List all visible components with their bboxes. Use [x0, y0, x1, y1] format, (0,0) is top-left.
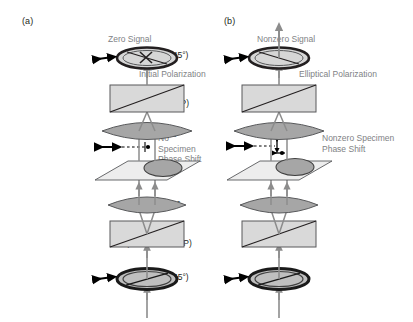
analyzer-orientation-arrow [98, 57, 113, 59]
panel-b-optics [207, 0, 413, 322]
condenser-lens [240, 197, 318, 213]
shear-phase-indicator-a [100, 142, 150, 152]
beam-pair-specimen-to-objective [139, 139, 155, 161]
specimen-object [276, 159, 314, 176]
objective-lens [234, 123, 324, 140]
panel-b: (b) Nonzero Signal Elliptical Polarizati… [207, 0, 413, 322]
specimen-object [144, 160, 182, 177]
analyzer-orientation-arrow [230, 57, 245, 59]
prism-objective-bfp [242, 85, 316, 112]
objective-lens [102, 123, 192, 140]
shear-phase-indicator-b [232, 140, 285, 155]
panel-a: (a) Analyzer (−45°) Prism (Objective BFP… [0, 0, 207, 322]
dic-optical-path-figure: (a) Analyzer (−45°) Prism (Objective BFP… [0, 0, 413, 322]
polarizer-orientation-arrow [98, 277, 113, 279]
prism-objective-bfp [110, 85, 184, 112]
panel-a-optics [0, 0, 207, 322]
beam-pair-specimen-to-objective [271, 139, 287, 161]
polarizer-orientation-arrow [230, 277, 245, 279]
condenser-lens [108, 197, 186, 213]
